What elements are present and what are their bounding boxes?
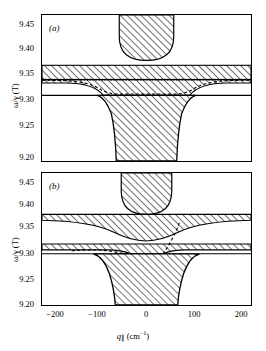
region-upper-u-blob-a bbox=[119, 15, 173, 60]
panel-a-label: (a) bbox=[49, 23, 60, 33]
xtick-200: 200 bbox=[221, 309, 261, 319]
region-upper-band-a bbox=[42, 65, 251, 79]
panel-b-label: (b) bbox=[49, 181, 60, 191]
ytick-a-940: 9.40 bbox=[4, 43, 34, 53]
ytick-a-920: 9.20 bbox=[4, 152, 34, 162]
panel-a bbox=[41, 14, 252, 162]
xtick-0: 0 bbox=[126, 309, 166, 319]
ytick-b-925: 9.25 bbox=[4, 274, 34, 284]
ytick-b-940: 9.40 bbox=[4, 199, 34, 209]
region-lower-funnel-b bbox=[94, 254, 200, 305]
region-middle-band-b bbox=[42, 244, 251, 254]
x-axis-label-close: ) bbox=[146, 331, 149, 341]
y-axis-label-b: ω/γ (T) bbox=[10, 237, 20, 262]
x-axis-label-sub: ∥ bbox=[121, 334, 125, 342]
xtick-m100: −100 bbox=[77, 309, 117, 319]
ytick-b-945: 9.45 bbox=[4, 177, 34, 187]
region-upper-u-blob-b bbox=[121, 173, 172, 214]
panel-b-plot bbox=[42, 173, 251, 305]
region-upper-band-b bbox=[42, 214, 251, 241]
panel-a-plot bbox=[42, 15, 251, 161]
ytick-b-920: 9.20 bbox=[4, 299, 34, 309]
y-axis-label-a: ω/γ (T) bbox=[10, 83, 20, 108]
panel-b bbox=[41, 172, 252, 306]
ytick-a-935: 9.35 bbox=[4, 68, 34, 78]
xtick-m200: −200 bbox=[35, 309, 75, 319]
region-middle-band-a bbox=[42, 80, 251, 96]
x-axis-label-unit: (cm bbox=[127, 331, 140, 341]
x-axis-label: q∥ (cm−1) bbox=[0, 330, 266, 342]
ytick-a-925: 9.25 bbox=[4, 120, 34, 130]
xtick-100: 100 bbox=[174, 309, 214, 319]
figure-root: (a) (b) 9.45 9.40 9.35 9.30 9.25 9.20 9.… bbox=[0, 0, 266, 351]
ytick-b-935: 9.35 bbox=[4, 221, 34, 231]
ytick-a-945: 9.45 bbox=[4, 19, 34, 29]
